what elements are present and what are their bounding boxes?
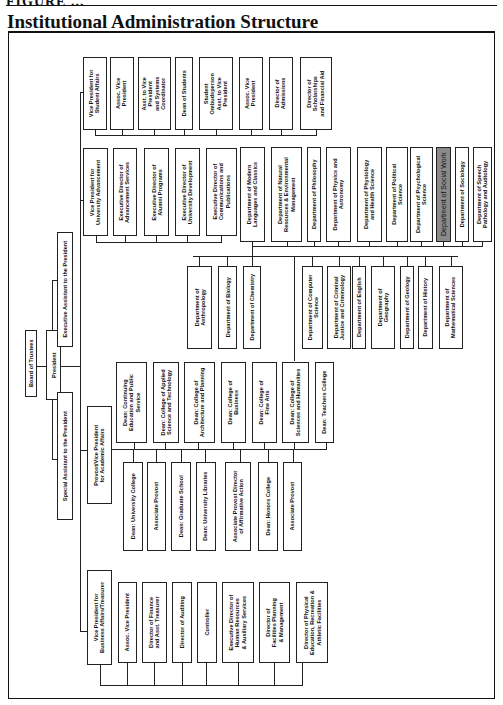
box-dean-university-libraries: Dean: University Libraries: [196, 462, 216, 551]
box-special-assistant: Special Assistant to the President: [57, 392, 73, 520]
connector: [462, 242, 463, 246]
connector: [156, 236, 157, 242]
box-dean-continuing-education: Dean: Continuing Education and Public Se…: [116, 362, 147, 443]
box-dean-business: Dean: College of Business: [221, 362, 246, 443]
box-adv-unit-2: Executive Director of Alumni Programs: [144, 148, 169, 236]
box-adv-unit-1: Executive Director of Advancement Servic…: [113, 148, 137, 236]
connector: [233, 443, 234, 449]
connector: [227, 256, 228, 266]
connector: [181, 449, 182, 462]
connector: [312, 256, 313, 266]
page-title: Institutional Administration Structure: [7, 11, 318, 33]
box-label: Director of Admissions: [275, 78, 288, 110]
box-dept-speech-pathology: Department of Speech Pathology and Audio…: [473, 147, 492, 242]
box-label: Department of Mathematical Sciences: [445, 277, 458, 338]
connector: [338, 242, 339, 246]
box-sa-unit-1: Assoc. Vice President: [110, 57, 134, 130]
connector: [96, 236, 97, 242]
connector: [293, 449, 294, 462]
box-dean-architecture: Dean: College of Architecture and Planni…: [184, 362, 215, 443]
connector: [359, 256, 360, 266]
box-label: Department of Philosophy: [311, 160, 317, 230]
box-label: Department of Sociology: [459, 161, 465, 227]
connector: [96, 242, 222, 243]
box-dept-philosophy: Department of Philosophy: [307, 147, 321, 242]
box-label: Dean: College of Architecture and Planni…: [193, 368, 206, 438]
header-rule: [6, 5, 497, 6]
connector: [100, 665, 101, 685]
box-label: Dean of Students: [181, 71, 187, 117]
box-label: Assoc. Vice President: [245, 78, 258, 109]
box-vp-student-affairs: Vice President for Student Affairs: [83, 57, 107, 130]
box-label: Associate Provost Director of Affirmativ…: [232, 471, 245, 543]
box-label: Dean: University Libraries: [203, 472, 209, 541]
connector: [252, 246, 253, 256]
connector: [198, 443, 199, 449]
box-dean-sciences-humanities: Dean: College of Sciences and Humanities: [282, 362, 309, 443]
box-dept-criminal-justice: Department of Criminal Justice and Crimi…: [327, 266, 351, 349]
connector: [125, 236, 126, 242]
box-label: Special Assistant to the President: [62, 411, 68, 501]
connector: [252, 256, 253, 266]
box-label: Board of Trustees: [28, 340, 34, 388]
box-associate-provost-1: Associate Provost: [147, 462, 166, 551]
box-label: Associate Provost: [289, 482, 295, 531]
connector: [302, 663, 303, 685]
box-label: Executive Assistant to the President: [62, 241, 68, 337]
connector: [193, 256, 458, 257]
box-label: Department of English: [356, 278, 362, 338]
connector: [281, 130, 282, 135]
box-label: Department of Geography: [377, 289, 390, 327]
connector: [274, 663, 275, 685]
box-label: Department of Biology: [224, 278, 230, 338]
box-label: Controller: [204, 609, 210, 636]
box-sa-unit-4: Student Ombudsperson Asst. to Vice Presi…: [199, 57, 233, 130]
box-dean-teachers-college: Dean: Teachers College: [315, 362, 334, 443]
box-dept-physiology: Department of Physiology and Health Scie…: [357, 147, 382, 242]
connector: [451, 256, 452, 266]
connector: [205, 449, 206, 462]
connector: [182, 663, 183, 685]
box-label: President: [50, 352, 56, 378]
box-dept-psychological-science: Department of Psychological Science: [410, 147, 433, 242]
box-label: Dean: Honors College: [265, 477, 271, 535]
box-dean-fine-arts: Dean: College of Fine Arts: [252, 362, 277, 443]
box-board-of-trustees: Board of Trustees: [25, 330, 37, 397]
box-sa-unit-7: Director of Scholarships and Financial A…: [300, 57, 332, 130]
box-sa-unit-6: Director of Admissions: [269, 57, 293, 130]
box-label: Provost/Vice President for Academic Affa…: [93, 425, 106, 486]
box-vp-advancement: Vice President for University Advancemen…: [83, 148, 108, 236]
box-dept-biology: Department of Biology: [218, 266, 237, 349]
connector: [133, 449, 134, 462]
box-label: Vice President for University Advancemen…: [89, 159, 102, 224]
box-dept-political-science: Department of Political Science: [386, 147, 408, 242]
box-label: Department of Anthropology: [193, 289, 206, 327]
box-label: Dean: College of Applied Science and Tec…: [160, 370, 173, 436]
connector: [252, 246, 483, 247]
connector: [443, 242, 444, 246]
connector: [251, 130, 252, 135]
box-associate-provost-2: Associate Provost: [283, 462, 302, 551]
connector: [294, 256, 295, 361]
box-label: Department of Social Work: [440, 153, 446, 237]
connector: [238, 663, 239, 685]
box-label: Vice President for Business Affairs/Trea…: [93, 582, 106, 653]
box-label: Dean: College of Business: [227, 380, 240, 424]
box-dean-applied-science: Dean: College of Applied Science and Tec…: [153, 362, 179, 443]
box-dean-university-college: Dean: University College: [123, 462, 143, 551]
box-dept-chemistry: Department of Chemistry: [243, 266, 261, 349]
box-dept-sociology: Department of Sociology: [455, 147, 469, 242]
box-dean-graduate-school: Dean: Graduate School: [171, 462, 191, 551]
box-adv-unit-3: Executive Director of University Develop…: [175, 148, 200, 236]
box-label: Dean: University College: [130, 474, 136, 540]
box-sa-unit-5: Assoc. Vice President: [239, 57, 263, 130]
box-label: Department of Natural Resources & Enviro…: [277, 157, 296, 232]
connector: [122, 130, 123, 135]
connector: [240, 449, 241, 462]
connector: [221, 236, 222, 242]
connector: [127, 663, 128, 685]
connector: [383, 256, 384, 266]
box-associate-provost-affirmative-action: Associate Provost Director of Affirmativ…: [225, 462, 251, 551]
connector: [187, 236, 188, 242]
connector: [206, 663, 207, 685]
